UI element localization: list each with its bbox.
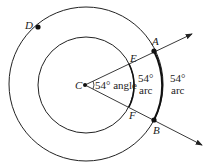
point-A bbox=[151, 48, 156, 53]
label-F: F bbox=[128, 109, 136, 121]
outer-arc-degree: 54° bbox=[170, 72, 185, 84]
concentric-circles-diagram: D A B C E F 54° angle 54° arc 54° arc bbox=[0, 0, 211, 167]
point-D bbox=[35, 24, 40, 29]
outer-arc-word: arc bbox=[171, 84, 185, 96]
label-B: B bbox=[153, 124, 160, 136]
label-D: D bbox=[24, 19, 33, 31]
label-E: E bbox=[129, 52, 137, 64]
inner-arc-word: arc bbox=[139, 84, 153, 96]
inner-arc-degree: 54° bbox=[138, 72, 153, 84]
highlighted-outer-arc bbox=[154, 51, 162, 120]
angle-mark bbox=[93, 81, 94, 89]
label-C: C bbox=[75, 79, 83, 91]
label-A: A bbox=[151, 35, 159, 47]
point-B bbox=[151, 117, 156, 122]
angle-annotation: 54° angle bbox=[95, 79, 137, 91]
point-C bbox=[83, 83, 87, 87]
